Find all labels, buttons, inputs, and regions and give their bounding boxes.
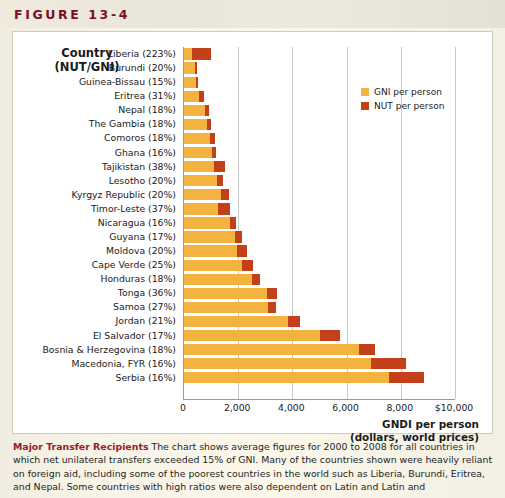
bar-segment-gni — [184, 330, 320, 341]
bar-segment-gni — [184, 119, 207, 130]
bar-segment-gni — [184, 189, 221, 200]
category-label: Nepal (18%) — [13, 103, 181, 117]
bar-row — [184, 272, 454, 286]
figure-header-band: FIGURE 13-4 — [0, 0, 505, 28]
bar-segment-nut — [371, 358, 406, 369]
category-label: Cape Verde (25%) — [13, 258, 181, 272]
category-label: Nicaragua (16%) — [13, 216, 181, 230]
legend-item-nut: NUT per person — [361, 100, 444, 112]
bar-row — [184, 357, 454, 371]
stacked-bar — [184, 274, 260, 285]
bar-segment-nut — [196, 77, 198, 88]
x-tick-label: 2,000 — [224, 402, 251, 413]
bar-row — [184, 314, 454, 328]
caption-lead: Major Transfer Recipients — [13, 441, 148, 452]
legend-swatch-gni-icon — [361, 88, 369, 96]
bar-segment-nut — [221, 189, 228, 200]
bar-segment-gni — [184, 274, 252, 285]
bar-row — [184, 146, 454, 160]
bar-row — [184, 202, 454, 216]
bar-segment-nut — [214, 161, 225, 172]
category-label: Lesotho (20%) — [13, 174, 181, 188]
bar-row — [184, 244, 454, 258]
category-label: Samoa (27%) — [13, 300, 181, 314]
bar-segment-gni — [184, 316, 288, 327]
bar-segment-gni — [184, 344, 359, 355]
chart-card: Country (NUT/GNI) Liberia (223%)Burundi … — [12, 31, 493, 434]
x-tick-label: 6,000 — [332, 402, 359, 413]
bar-segment-gni — [184, 133, 210, 144]
category-label: Eritrea (31%) — [13, 89, 181, 103]
bar-segment-gni — [184, 217, 230, 228]
bar-row — [184, 300, 454, 314]
bar-segment-gni — [184, 175, 217, 186]
stacked-bar — [184, 119, 211, 130]
category-label: Jordan (21%) — [13, 314, 181, 328]
bar-row — [184, 371, 454, 385]
bar-row — [184, 343, 454, 357]
figure-page: FIGURE 13-4 Country (NUT/GNI) Liberia (2… — [0, 0, 505, 498]
category-label: Bosnia & Herzegovina (18%) — [13, 343, 181, 357]
category-label: Liberia (223%) — [13, 47, 181, 61]
bar-segment-gni — [184, 147, 212, 158]
bar-segment-nut — [320, 330, 341, 341]
bar-segment-nut — [230, 217, 236, 228]
stacked-bar — [184, 203, 230, 214]
category-label: Moldova (20%) — [13, 244, 181, 258]
category-label: Ghana (16%) — [13, 146, 181, 160]
stacked-bar — [184, 62, 197, 73]
bar-segment-gni — [184, 260, 242, 271]
bar-segment-nut — [252, 274, 260, 285]
stacked-bar — [184, 175, 223, 186]
stacked-bar — [184, 217, 236, 228]
bar-segment-gni — [184, 91, 199, 102]
category-label: The Gambia (18%) — [13, 117, 181, 131]
x-tick-label: 8,000 — [386, 402, 413, 413]
x-tick-label: 0 — [180, 402, 186, 413]
stacked-bar — [184, 358, 406, 369]
x-axis-tick-labels: 02,0004,0006,0008,000$10,000 — [183, 399, 455, 419]
stacked-bar — [184, 91, 204, 102]
bar-segment-nut — [359, 344, 375, 355]
x-axis-title-line1: GNDI per person — [382, 418, 479, 430]
legend-swatch-nut-icon — [361, 102, 369, 110]
legend-item-gni: GNI per person — [361, 86, 444, 98]
gridline — [455, 47, 456, 399]
legend-label-nut: NUT per person — [374, 101, 444, 111]
bar-row — [184, 329, 454, 343]
stacked-bar — [184, 147, 216, 158]
bar-segment-nut — [389, 372, 424, 383]
bar-row — [184, 216, 454, 230]
bar-segment-nut — [207, 119, 211, 130]
bar-segment-nut — [242, 260, 253, 271]
category-label: Serbia (16%) — [13, 371, 181, 385]
bar-segment-nut — [205, 105, 209, 116]
stacked-bar — [184, 302, 276, 313]
bar-segment-nut — [192, 48, 211, 59]
chart-legend: GNI per person NUT per person — [361, 86, 444, 114]
bar-segment-gni — [184, 372, 389, 383]
legend-label-gni: GNI per person — [374, 87, 442, 97]
stacked-bar — [184, 372, 424, 383]
category-label: Kyrgyz Republic (20%) — [13, 188, 181, 202]
stacked-bar — [184, 77, 198, 88]
bar-row — [184, 174, 454, 188]
stacked-bar — [184, 105, 209, 116]
bar-segment-nut — [217, 175, 224, 186]
figure-number-label: FIGURE 13-4 — [14, 7, 130, 22]
category-label: Comoros (18%) — [13, 131, 181, 145]
bar-segment-gni — [184, 62, 195, 73]
stacked-bar — [184, 316, 300, 327]
stacked-bar — [184, 133, 215, 144]
bar-segment-nut — [218, 203, 231, 214]
bar-segment-gni — [184, 288, 267, 299]
bar-segment-gni — [184, 105, 205, 116]
bar-segment-nut — [267, 288, 278, 299]
stacked-bar — [184, 245, 247, 256]
bar-row — [184, 286, 454, 300]
category-label: Tonga (36%) — [13, 286, 181, 300]
bar-row — [184, 160, 454, 174]
bar-segment-nut — [288, 316, 300, 327]
stacked-bar — [184, 189, 229, 200]
category-label-list: Liberia (223%)Burundi (20%)Guinea-Bissau… — [13, 47, 181, 385]
